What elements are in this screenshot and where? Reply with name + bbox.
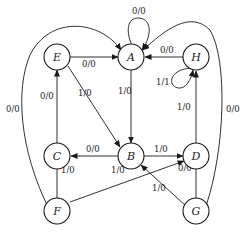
- label-G-B: 1/0: [152, 183, 166, 193]
- state-E: E: [44, 44, 70, 70]
- state-B: B: [118, 143, 144, 169]
- label-F-A: 0/0: [6, 104, 20, 114]
- state-label-B: B: [126, 150, 135, 163]
- state-label-A: A: [126, 51, 135, 64]
- state-F: F: [44, 198, 70, 224]
- label-G-A: 0/0: [226, 104, 240, 114]
- label-H-A: 0/0: [160, 45, 174, 55]
- state-C: C: [44, 143, 70, 169]
- state-label-G: G: [192, 205, 201, 218]
- state-A: A: [118, 44, 144, 70]
- state-D: D: [183, 143, 209, 169]
- state-label-C: C: [53, 150, 62, 163]
- state-H: H: [183, 44, 209, 70]
- label-B-D: 1/0: [154, 144, 168, 154]
- state-label-D: D: [191, 150, 201, 163]
- edge-G-A: [143, 22, 222, 206]
- label-E-A: 0/0: [82, 59, 96, 69]
- state-label-H: H: [190, 51, 201, 64]
- label-A-A: 0/0: [132, 6, 146, 16]
- label-B-C: 0/0: [86, 144, 100, 154]
- edge-F-A: [22, 26, 121, 207]
- state-label-F: F: [52, 205, 61, 218]
- label-E-B: 1/0: [78, 88, 92, 98]
- edge-H-H: [172, 68, 193, 88]
- label-D-H: 1/0: [177, 102, 191, 112]
- label-A-B: 1/0: [118, 86, 132, 96]
- label-C-E: 0/0: [40, 91, 54, 101]
- label-H-H: 1/1: [156, 77, 170, 87]
- state-diagram: 0/0 0/0 0/0 1/1 1/0 1/0 0/0 0/0 1/0 1/0 …: [0, 0, 249, 234]
- edge-E-B: [68, 66, 120, 147]
- nodes: A B C D E F G H: [44, 44, 209, 224]
- state-G: G: [183, 198, 209, 224]
- state-label-E: E: [52, 51, 61, 64]
